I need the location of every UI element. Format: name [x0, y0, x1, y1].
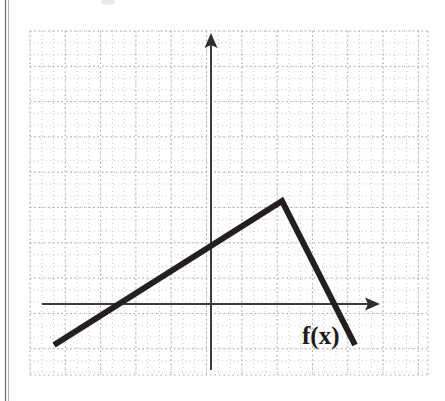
function-graph-figure: f(x) — [0, 0, 445, 401]
figure-page: f(x) — [0, 0, 445, 401]
paper-background — [0, 0, 445, 401]
function-label: f(x) — [302, 322, 339, 350]
